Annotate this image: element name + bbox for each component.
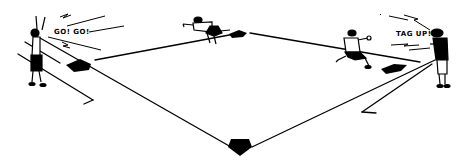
left-base (66, 59, 91, 72)
right-coach-callout: TAG UP! (396, 30, 431, 38)
third-base-runner (336, 30, 371, 69)
second-base-runner (183, 17, 230, 44)
right-coach-figure (430, 29, 450, 88)
second-base (229, 30, 247, 38)
right-base (381, 64, 407, 74)
home-plate (228, 139, 252, 156)
infield-lines (18, 33, 435, 147)
left-coach-figure (29, 16, 46, 87)
baseball-field-illustration (0, 0, 464, 167)
left-coach-callout: GO! GO! (54, 28, 90, 36)
